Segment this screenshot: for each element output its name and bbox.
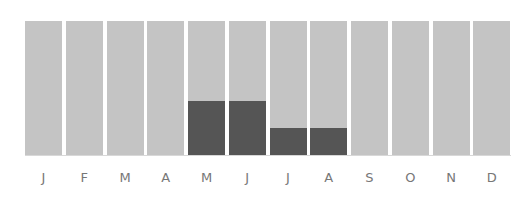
bar-month-4 — [188, 21, 225, 155]
x-tick-label: N — [433, 170, 470, 185]
bar-month-6 — [270, 21, 307, 155]
bar-month-7 — [310, 21, 347, 155]
bar-month-11 — [473, 21, 510, 155]
x-tick-label: A — [147, 170, 184, 185]
x-tick-label: J — [25, 170, 62, 185]
bar-month-5 — [229, 21, 266, 155]
x-tick-label: O — [392, 170, 429, 185]
x-tick-label: M — [188, 170, 225, 185]
x-axis-baseline — [25, 155, 511, 156]
bar-value-fill — [270, 128, 307, 155]
bar-month-9 — [392, 21, 429, 155]
x-tick-label: D — [473, 170, 510, 185]
bar-value-fill — [310, 128, 347, 155]
x-tick-label: J — [270, 170, 307, 185]
x-tick-label: M — [107, 170, 144, 185]
bar-chart — [25, 21, 511, 155]
bar-month-1 — [66, 21, 103, 155]
bar-month-0 — [25, 21, 62, 155]
bar-month-8 — [351, 21, 388, 155]
bar-value-fill — [188, 101, 225, 155]
bar-month-3 — [147, 21, 184, 155]
x-tick-label: A — [310, 170, 347, 185]
x-tick-label: S — [351, 170, 388, 185]
x-tick-label: F — [66, 170, 103, 185]
bar-month-10 — [433, 21, 470, 155]
bar-month-2 — [107, 21, 144, 155]
bar-value-fill — [229, 101, 266, 155]
x-tick-label: J — [229, 170, 266, 185]
